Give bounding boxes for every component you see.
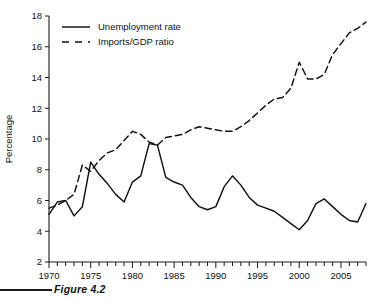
x-axis: 19701975198019851990199520002005 (38, 262, 366, 281)
y-axis-title-text: Percentage (3, 115, 14, 164)
line-chart: 24681012141618 1970197519801985199019952… (0, 0, 374, 300)
y-axis-tick-label: 2 (37, 256, 42, 267)
y-axis-tick-label: 16 (31, 41, 42, 52)
figure-caption: Figure 4.2 (54, 283, 106, 295)
caption-rule (0, 289, 52, 291)
x-axis-tick-label: 1970 (38, 270, 59, 281)
chart-legend: Unemployment rateImports/GDP ratio (62, 21, 181, 47)
figure-caption-bar: Figure 4.2 (0, 283, 374, 300)
x-axis-tick-label: 1990 (205, 270, 226, 281)
series-line-unemployment-rate (49, 144, 366, 230)
y-axis-tick-label: 8 (37, 164, 42, 175)
chart-series-group (49, 22, 366, 230)
series-line-imports-gdp-ratio (49, 22, 366, 208)
figure-container: 24681012141618 1970197519801985199019952… (0, 0, 374, 300)
y-axis-tick-label: 12 (31, 103, 42, 114)
y-axis-tick-label: 18 (31, 10, 42, 21)
y-axis-tick-label: 6 (37, 195, 42, 206)
legend-label-2: Imports/GDP ratio (98, 36, 174, 47)
x-axis-tick-label: 1995 (247, 270, 268, 281)
legend-label-1: Unemployment rate (98, 21, 181, 32)
y-axis-title: Percentage (3, 115, 14, 164)
x-axis-tick-label: 2000 (289, 270, 310, 281)
y-axis-tick-label: 14 (31, 72, 42, 83)
y-axis: 24681012141618 (31, 10, 49, 267)
x-axis-tick-label: 1980 (122, 270, 143, 281)
x-axis-tick-label: 1975 (80, 270, 101, 281)
y-axis-tick-label: 4 (37, 226, 42, 237)
y-axis-tick-label: 10 (31, 133, 42, 144)
x-axis-tick-label: 2005 (330, 270, 351, 281)
x-axis-tick-label: 1985 (164, 270, 185, 281)
